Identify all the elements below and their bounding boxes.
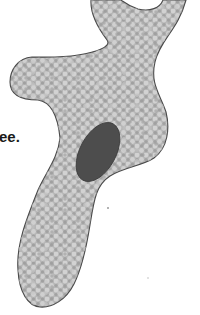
- figure-canvas: [0, 0, 200, 315]
- stray-speck: [107, 207, 109, 209]
- caption-fragment: ee.: [0, 128, 20, 145]
- stray-speck: [147, 277, 149, 279]
- amoeba-illustration: [0, 0, 200, 315]
